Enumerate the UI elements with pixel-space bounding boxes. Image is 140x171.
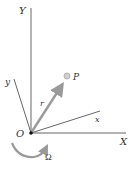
label-point-P: P: [72, 72, 80, 82]
rotating-frame-diagram: Y X y x O P r Ω: [0, 0, 140, 171]
label-y-axis: y: [4, 77, 11, 87]
label-X-axis: X: [119, 136, 128, 147]
point-P: [64, 73, 70, 79]
label-omega: Ω: [45, 152, 52, 162]
label-origin-O: O: [16, 128, 24, 139]
label-Y-axis: Y: [19, 5, 27, 16]
rotating-x-axis: [31, 111, 100, 133]
rotating-y-axis: [14, 79, 31, 133]
angular-velocity-arrow: [12, 143, 46, 157]
position-vector-r: [31, 85, 62, 133]
label-x-axis: x: [95, 115, 100, 124]
origin-dot: [29, 131, 33, 135]
label-vector-r: r: [40, 99, 45, 108]
